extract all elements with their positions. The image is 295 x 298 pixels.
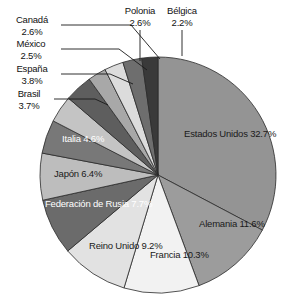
slice-label-japon-pct: 6.4% [81, 168, 102, 179]
slice-label-japon-name: Japón [54, 168, 79, 179]
pie-chart: Canadá 2.6% México 2.5% España 3.8% Bras… [0, 0, 295, 298]
leader-line-canada [61, 25, 160, 59]
slice-label-rusia-name: Federación [45, 198, 91, 209]
callout-espana-pct: 3.8% [6, 75, 58, 87]
callout-mexico: México 2.5% [4, 38, 58, 61]
callout-belgica-name: Bélgica [157, 5, 207, 17]
slice-label-rusia-pct: 7.7% [131, 198, 152, 209]
callout-brasil-pct: 3.7% [6, 100, 52, 112]
slice-label-alemania: Alemania 11.6% [199, 218, 261, 230]
slice-label-estados-unidos-name: Estados Unidos [184, 128, 248, 139]
slice-label-reino-unido: Reino Unido 9.2% [89, 240, 159, 252]
slice-label-rusia: Federación de Rusia 7.7% [45, 198, 111, 210]
slice-label-italia: Italia 4.6% [62, 133, 104, 145]
slice-label-reino-unido-pct: 9.2% [142, 240, 163, 251]
callout-brasil-name: Brasil [6, 88, 52, 100]
slice-label-estados-unidos: Estados Unidos 32.7% [184, 128, 274, 140]
callout-belgica-pct: 2.2% [157, 17, 207, 29]
slice-label-japon: Japón 6.4% [54, 168, 98, 180]
callout-belgica: Bélgica 2.2% [157, 5, 207, 28]
slice-label-reino-unido-name: Reino Unido [89, 240, 139, 251]
slice-label-alemania-name: Alemania [199, 218, 237, 229]
callout-mexico-pct: 2.5% [4, 50, 58, 62]
slice-label-italia-name: Italia [62, 133, 81, 144]
slice-label-estados-unidos-pct: 32.7% [250, 128, 276, 139]
callout-espana-name: España [6, 63, 58, 75]
callout-mexico-name: México [4, 38, 58, 50]
callout-canada-name: Canadá [6, 14, 58, 26]
slice-label-alemania-pct: 11.6% [239, 218, 264, 229]
callout-brasil: Brasil 3.7% [6, 88, 52, 111]
slice-label-rusia-name2: de Rusia [93, 198, 129, 209]
callout-canada-pct: 2.6% [6, 26, 58, 38]
slice-label-francia-pct: 10.3% [183, 249, 209, 260]
callout-espana: España 3.8% [6, 63, 58, 86]
callout-canada: Canadá 2.6% [6, 14, 58, 37]
slice-label-italia-pct: 4.6% [83, 133, 104, 144]
